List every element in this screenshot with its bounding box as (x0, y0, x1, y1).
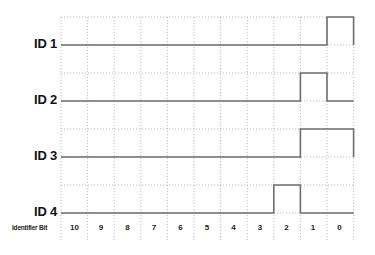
bit-label: 4 (231, 223, 235, 232)
bit-label: 10 (70, 223, 79, 232)
bit-label: 7 (152, 223, 156, 232)
identifier-bit-axis-label: Identifier Bit (12, 224, 47, 231)
bit-label: 1 (311, 223, 315, 232)
bit-label: 6 (178, 223, 182, 232)
signal-trace-2 (61, 73, 354, 101)
can-identifier-timing-diagram: ID 1 ID 2 ID 3 ID 4 Identifier Bit 10 9 … (0, 0, 375, 255)
row-label-id3: ID 3 (34, 148, 57, 163)
row-label-id2: ID 2 (34, 92, 57, 107)
row-label-id4: ID 4 (34, 204, 57, 219)
signal-trace-4 (61, 185, 354, 213)
bit-label: 3 (258, 223, 262, 232)
bit-label: 0 (337, 223, 341, 232)
bit-label: 2 (284, 223, 288, 232)
signal-trace-3 (61, 129, 354, 157)
bit-label: 8 (125, 223, 129, 232)
signal-trace-1 (61, 17, 354, 45)
row-label-id1: ID 1 (34, 36, 57, 51)
bit-label: 9 (99, 223, 103, 232)
bit-label: 5 (205, 223, 209, 232)
